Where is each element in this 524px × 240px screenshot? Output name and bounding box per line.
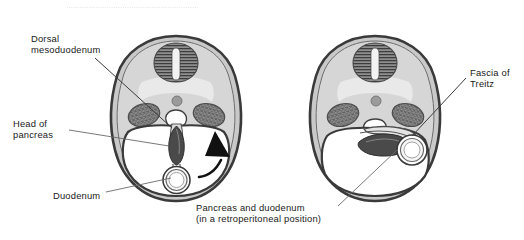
spinal-cord-left [172,48,180,80]
duodenum-lumen-right [404,142,420,158]
spinal-cord-right [371,48,379,80]
duodenum-lumen-left [169,173,184,188]
label-fascia-of-treitz: Fascia of Treitz [470,67,510,90]
label-duodenum: Duodenum [53,190,100,201]
label-pancreas-and-duodenum: Pancreas and duodenum (in a retroperiton… [196,202,321,225]
label-head-of-pancreas: Head of pancreas [13,118,53,141]
right-panel [310,36,440,201]
figure-canvas: Dorsal mesoduodenum Head of pancreas Duo… [0,0,524,240]
label-dorsal-mesoduodenum: Dorsal mesoduodenum [31,33,101,56]
aorta-left [172,96,182,106]
aorta-right [371,96,381,106]
dotted-separator [2,7,264,8]
left-panel [111,36,241,201]
